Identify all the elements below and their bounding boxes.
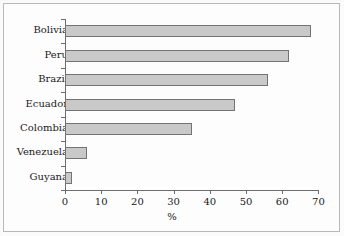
category-label-peru: Peru: [0, 49, 68, 60]
y-tick-2: [61, 68, 65, 69]
x-tick-label-60: 60: [267, 196, 297, 207]
bar-brazil: [65, 74, 268, 86]
bar-chart-plot: 010203040506070 BoliviaPeruBrazilEcuador…: [0, 0, 344, 236]
x-tick-label-50: 50: [231, 196, 261, 207]
x-tick-50: [246, 190, 247, 194]
bar-venezuela: [65, 147, 87, 159]
y-tick-1: [61, 43, 65, 44]
x-tick-label-40: 40: [195, 196, 225, 207]
x-tick-20: [137, 190, 138, 194]
y-tick-0: [61, 19, 65, 20]
bar-colombia: [65, 123, 192, 135]
x-axis-line: [65, 190, 319, 191]
x-tick-label-0: 0: [50, 196, 80, 207]
y-tick-6: [61, 166, 65, 167]
bar-bolivia: [65, 25, 311, 37]
y-tick-4: [61, 117, 65, 118]
category-label-brazil: Brazil: [0, 73, 68, 84]
y-tick-5: [61, 141, 65, 142]
x-tick-label-20: 20: [122, 196, 152, 207]
category-label-guyana: Guyana: [0, 171, 68, 182]
y-tick-7: [61, 190, 65, 191]
x-tick-label-30: 30: [159, 196, 189, 207]
chart-screenshot: 010203040506070 BoliviaPeruBrazilEcuador…: [0, 0, 344, 236]
x-tick-40: [210, 190, 211, 194]
x-tick-30: [174, 190, 175, 194]
category-label-colombia: Colombia: [0, 122, 68, 133]
y-tick-3: [61, 92, 65, 93]
x-tick-label-70: 70: [303, 196, 333, 207]
bar-ecuador: [65, 99, 235, 111]
bar-peru: [65, 50, 289, 62]
x-tick-label-10: 10: [86, 196, 116, 207]
bar-guyana: [65, 172, 72, 184]
category-label-venezuela: Venezuela: [0, 146, 68, 157]
x-axis-title: %: [0, 211, 344, 222]
x-tick-0: [65, 190, 66, 194]
category-label-ecuador: Ecuador: [0, 98, 68, 109]
x-tick-10: [101, 190, 102, 194]
x-tick-60: [282, 190, 283, 194]
category-label-bolivia: Bolivia: [0, 24, 68, 35]
x-tick-70: [318, 190, 319, 194]
